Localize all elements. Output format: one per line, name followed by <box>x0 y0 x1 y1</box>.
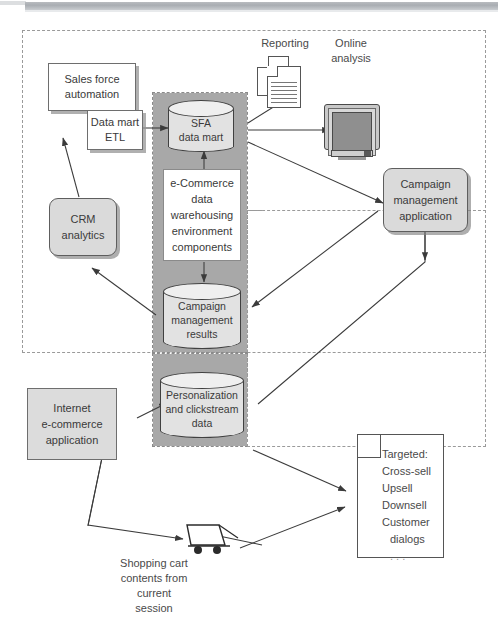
crt-monitor-icon <box>324 104 380 162</box>
targeted-item-0: Cross-sell <box>382 463 443 480</box>
targeted-item-4: dialogs <box>382 531 443 548</box>
campaign-app-label-line3: application <box>393 208 457 224</box>
campaign-app-label-line1: Campaign <box>393 176 457 192</box>
targeted-item-2: Downsell <box>382 497 443 514</box>
sales-force-automation-label-line1: Sales force <box>64 72 119 87</box>
internet-app-label-line3: application <box>41 432 102 448</box>
personalization-clickstream-database[interactable]: Personalization and clickstream data <box>160 372 244 438</box>
data-mart-etl-node[interactable]: Data mart ETL <box>87 110 143 150</box>
online-analysis-label: Online analysis <box>320 36 382 66</box>
campaign-management-application-node[interactable]: Campaign management application <box>383 168 468 232</box>
data-mart-etl-label-line2: ETL <box>91 130 139 145</box>
campaign-results-label: Campaign management results <box>163 299 241 341</box>
targeted-heading: Targeted: <box>382 446 443 463</box>
campaign-app-label-line2: management <box>393 192 457 208</box>
data-mart-etl-label-line1: Data mart <box>91 115 139 130</box>
shopping-cart-icon <box>186 524 238 556</box>
sales-force-automation-label-line2: automation <box>64 87 119 102</box>
targeted-output-document[interactable]: Targeted: Cross-sell Upsell Downsell Cus… <box>357 434 444 558</box>
components-label-line1: e-Commerce <box>170 175 234 191</box>
internet-ecommerce-application-node[interactable]: Internet e-commerce application <box>27 388 117 460</box>
sfa-data-mart-database[interactable]: SFA data mart <box>168 100 234 152</box>
components-label-line2: data <box>170 191 234 207</box>
cylinder-top <box>163 283 241 300</box>
page-folded-corner-icon <box>358 435 381 458</box>
targeted-item-5: . . . <box>382 548 443 565</box>
campaign-management-results-database[interactable]: Campaign management results <box>163 283 241 349</box>
targeted-list: Targeted: Cross-sell Upsell Downsell Cus… <box>382 446 443 565</box>
components-label-line5: components <box>170 239 234 255</box>
document-stack-icon <box>257 56 309 110</box>
shopping-cart-caption: Shopping cart contents from current sess… <box>98 556 210 616</box>
internet-app-label-line1: Internet <box>41 400 102 416</box>
targeted-item-1: Upsell <box>382 480 443 497</box>
crm-analytics-label-line1: CRM <box>62 211 105 227</box>
personalization-label: Personalization and clickstream data <box>160 388 244 430</box>
components-label-line3: warehousing <box>170 207 234 223</box>
sfa-data-mart-label: SFA data mart <box>168 116 234 144</box>
sales-force-automation-node[interactable]: Sales force automation <box>48 63 136 111</box>
cylinder-top <box>168 100 234 117</box>
cylinder-top <box>160 372 244 389</box>
diagram-canvas: Sales force automation Data mart ETL CRM… <box>0 0 498 635</box>
internet-app-label-line2: e-commerce <box>41 416 102 432</box>
targeted-item-3: Customer <box>382 514 443 531</box>
reporting-label: Reporting <box>250 36 320 51</box>
crm-analytics-node[interactable]: CRM analytics <box>49 198 117 256</box>
crm-analytics-label-line2: analytics <box>62 227 105 243</box>
ecommerce-dw-components-node: e-Commerce data warehousing environment … <box>163 169 241 261</box>
components-label-line4: environment <box>170 223 234 239</box>
